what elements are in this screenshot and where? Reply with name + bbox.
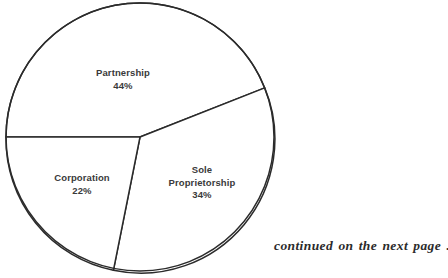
continued-next-page-note: continued on the next page ... xyxy=(274,238,446,254)
pie-label-corporation: Corporation 22% xyxy=(22,172,142,197)
page-canvas: Partnership 44% Corporation 22% Sole Pro… xyxy=(0,0,448,278)
pie-label-corporation-value: 22% xyxy=(22,185,142,198)
pie-label-sole-proprietorship-name-line1: Sole xyxy=(142,164,262,177)
pie-label-partnership-value: 44% xyxy=(63,80,183,93)
pie-chart-graphic xyxy=(0,0,448,278)
pie-label-corporation-name: Corporation xyxy=(22,172,142,185)
pie-label-sole-proprietorship: Sole Proprietorship 34% xyxy=(142,164,262,202)
pie-label-partnership: Partnership 44% xyxy=(63,67,183,92)
pie-label-sole-proprietorship-value: 34% xyxy=(142,189,262,202)
pie-label-sole-proprietorship-name-line2: Proprietorship xyxy=(142,177,262,190)
pie-label-partnership-name: Partnership xyxy=(63,67,183,80)
